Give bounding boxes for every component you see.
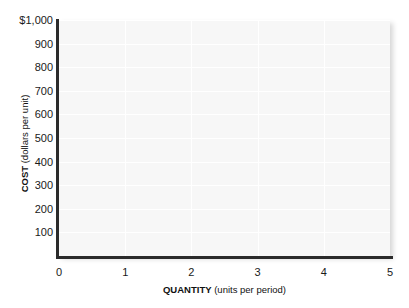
y-axis-tick-label: 900 xyxy=(1,39,53,50)
gridline-horizontal xyxy=(59,138,390,139)
gridline-vertical xyxy=(258,20,259,256)
y-axis-title: COST (dollars per unit) xyxy=(19,59,30,229)
x-axis-tick-label: 2 xyxy=(176,266,206,278)
gridline-horizontal xyxy=(59,20,390,21)
y-axis-tick-label: $1,000 xyxy=(1,15,53,26)
x-axis-tick-label: 3 xyxy=(243,266,273,278)
gridline-vertical xyxy=(324,20,325,256)
gridline-horizontal xyxy=(59,185,390,186)
gridline-horizontal xyxy=(59,232,390,233)
gridline-horizontal xyxy=(59,67,390,68)
plot-area xyxy=(59,20,390,256)
x-axis-tick-label: 5 xyxy=(375,266,405,278)
gridline-horizontal xyxy=(59,91,390,92)
x-axis-title: QUANTITY (units per period) xyxy=(59,284,390,295)
x-axis-tick-label: 0 xyxy=(44,266,74,278)
y-axis-title-keyword: COST xyxy=(19,166,30,192)
x-axis-line xyxy=(56,256,393,259)
gridline-horizontal xyxy=(59,162,390,163)
gridline-horizontal xyxy=(59,209,390,210)
chart-figure: 100200300400500600700800900$1,000 012345… xyxy=(0,0,409,308)
y-axis-tick-label: 100 xyxy=(1,227,53,238)
x-axis-tick-label: 4 xyxy=(309,266,339,278)
y-axis-line xyxy=(56,19,59,259)
y-axis-title-unit: (dollars per unit) xyxy=(19,95,30,164)
x-axis-title-keyword: QUANTITY xyxy=(163,284,212,295)
x-axis-title-unit: (units per period) xyxy=(214,284,286,295)
gridline-horizontal xyxy=(59,114,390,115)
gridline-horizontal xyxy=(59,44,390,45)
gridline-vertical xyxy=(125,20,126,256)
gridline-vertical xyxy=(191,20,192,256)
x-axis-tick-label: 1 xyxy=(110,266,140,278)
